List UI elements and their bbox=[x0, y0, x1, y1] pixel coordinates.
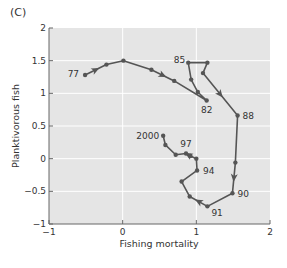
data-point bbox=[235, 113, 239, 117]
point-label: 91 bbox=[211, 208, 222, 218]
data-point bbox=[188, 194, 192, 198]
x-tick-label: 2 bbox=[267, 227, 273, 237]
data-point bbox=[194, 156, 198, 160]
y-axis-title: Planktivorous fish bbox=[10, 84, 21, 168]
y-tick-label: 1.5 bbox=[32, 56, 46, 66]
point-label: 2000 bbox=[136, 131, 159, 141]
data-point bbox=[104, 62, 108, 66]
point-label: 88 bbox=[243, 111, 255, 121]
point-label: 77 bbox=[68, 69, 79, 79]
data-point bbox=[233, 160, 237, 164]
y-tick-label: 2 bbox=[40, 23, 46, 33]
data-point bbox=[172, 79, 176, 83]
data-point bbox=[230, 191, 234, 195]
x-tick-label: 0 bbox=[120, 227, 126, 237]
y-tick-label: −1 bbox=[33, 219, 46, 229]
data-point bbox=[205, 204, 209, 208]
data-point bbox=[201, 71, 205, 75]
data-point bbox=[188, 154, 192, 158]
data-point bbox=[186, 60, 190, 64]
point-label: 90 bbox=[237, 189, 249, 199]
x-axis-title: Fishing mortality bbox=[119, 238, 199, 249]
data-point bbox=[179, 179, 183, 183]
data-point bbox=[204, 98, 208, 102]
data-point bbox=[149, 68, 153, 72]
data-point bbox=[195, 168, 199, 172]
data-point bbox=[161, 134, 165, 138]
data-point bbox=[205, 60, 209, 64]
data-point bbox=[121, 58, 125, 62]
point-label: 94 bbox=[203, 166, 215, 176]
point-label: 85 bbox=[174, 55, 185, 65]
data-point bbox=[189, 77, 193, 81]
point-label: 97 bbox=[180, 139, 191, 149]
x-tick-label: 1 bbox=[193, 227, 199, 237]
y-tick-label: 0 bbox=[40, 154, 46, 164]
y-tick-label: −0.5 bbox=[24, 186, 46, 196]
data-point bbox=[196, 90, 200, 94]
data-point bbox=[83, 73, 87, 77]
data-point bbox=[174, 153, 178, 157]
y-tick-label: 1 bbox=[40, 88, 46, 98]
data-point bbox=[163, 143, 167, 147]
point-label: 82 bbox=[201, 105, 212, 115]
y-tick-label: 0.5 bbox=[32, 121, 46, 131]
chart: −1012 −1−0.500.511.52 778285889091949720… bbox=[0, 0, 287, 268]
data-point bbox=[184, 151, 188, 155]
